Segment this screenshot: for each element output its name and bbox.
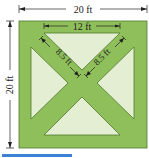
accent-bar — [2, 154, 72, 157]
top-triangle-base-label: 12 ft — [73, 21, 92, 32]
outer-width-label: 20 ft — [74, 4, 93, 15]
garden-diagram: 20 ft 20 ft 12 ft 8.5 ft 8.5 ft — [0, 0, 149, 158]
outer-height-label: 20 ft — [4, 75, 15, 94]
